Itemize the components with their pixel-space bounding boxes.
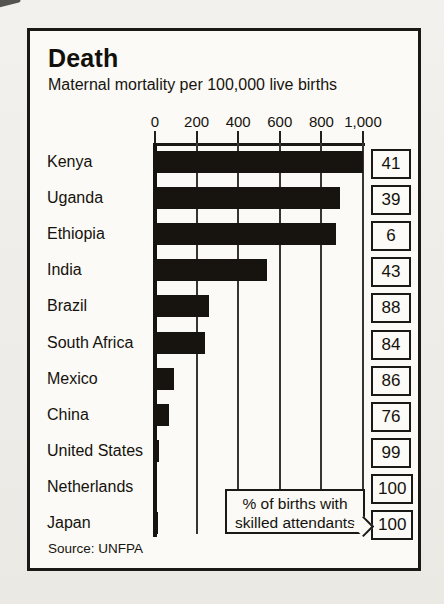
attendants-value-box: 76 — [371, 402, 411, 432]
axis-tick-label: 400 — [226, 113, 251, 130]
chart-panel: Death Maternal mortality per 100,000 liv… — [27, 28, 421, 571]
chart-area: 02004006008001,000Kenya41Uganda39Ethiopi… — [30, 31, 418, 568]
attendants-value-box: 100 — [371, 510, 413, 540]
mortality-bar — [155, 259, 267, 281]
attendants-value-box: 6 — [371, 221, 411, 251]
attendants-value-box: 99 — [371, 438, 411, 468]
attendants-value-box: 39 — [371, 185, 411, 215]
country-label: Brazil — [47, 297, 153, 315]
attendants-value-box: 41 — [371, 149, 411, 179]
mortality-bar — [155, 187, 340, 209]
source-note: Source: UNFPA — [48, 541, 143, 556]
country-label: Mexico — [47, 370, 153, 388]
country-label: Uganda — [47, 189, 153, 207]
callout-line-1: % of births with — [227, 494, 363, 513]
country-label: United States — [47, 442, 153, 460]
attendants-value-box: 86 — [371, 366, 411, 396]
axis-tick-label: 800 — [309, 113, 334, 130]
axis-tick-label: 0 — [151, 113, 159, 130]
x-axis-line — [153, 143, 365, 146]
country-label: Netherlands — [47, 478, 153, 496]
axis-tick-label: 600 — [267, 113, 292, 130]
mortality-bar — [155, 151, 363, 173]
attendants-value-box: 84 — [371, 330, 411, 360]
mortality-bar — [155, 223, 336, 245]
country-label: Kenya — [47, 153, 153, 171]
gridline — [362, 143, 364, 534]
mortality-bar — [155, 295, 209, 317]
axis-baseline — [153, 143, 157, 537]
country-label: India — [47, 261, 153, 279]
axis-tick-label: 1,000 — [344, 113, 382, 130]
attendants-value-box: 88 — [371, 293, 411, 323]
attendants-value-box: 100 — [371, 474, 413, 504]
mortality-bar — [155, 332, 205, 354]
scan-artifact — [0, 0, 21, 8]
skilled-attendants-callout: % of births with skilled attendants — [225, 489, 365, 534]
country-label: Japan — [47, 514, 153, 532]
country-label: Ethiopia — [47, 225, 153, 243]
mortality-bar — [155, 404, 169, 426]
attendants-value-box: 43 — [371, 257, 411, 287]
axis-tick-label: 200 — [184, 113, 209, 130]
callout-line-2: skilled attendants — [227, 513, 363, 532]
country-label: China — [47, 406, 153, 424]
page-background: Death Maternal mortality per 100,000 liv… — [0, 0, 444, 604]
country-label: South Africa — [47, 334, 153, 352]
mortality-bar — [155, 368, 174, 390]
